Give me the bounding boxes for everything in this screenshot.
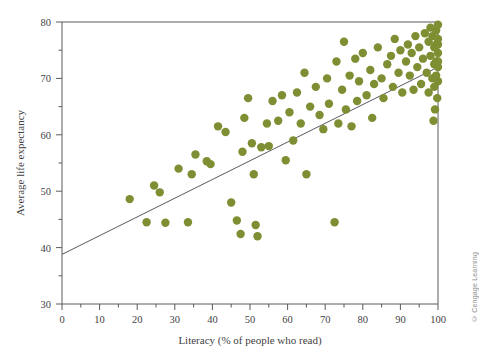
x-tick-label: 90 bbox=[395, 314, 406, 325]
data-point bbox=[125, 195, 133, 203]
copyright-credit: © Cengage Learning bbox=[471, 252, 478, 322]
data-point bbox=[409, 85, 417, 93]
data-point bbox=[351, 54, 359, 62]
axis-labels-group: 0102030405060708090100304050607080Litera… bbox=[14, 17, 446, 347]
data-point bbox=[233, 216, 241, 224]
data-point bbox=[434, 77, 442, 85]
scatter-plot-figure: 0102030405060708090100304050607080Litera… bbox=[0, 0, 480, 362]
y-tick-label: 60 bbox=[41, 130, 52, 141]
data-point bbox=[434, 49, 442, 57]
data-point bbox=[370, 80, 378, 88]
data-point bbox=[278, 91, 286, 99]
data-point bbox=[244, 94, 252, 102]
data-point bbox=[330, 218, 338, 226]
data-point bbox=[353, 97, 361, 105]
data-point bbox=[362, 91, 370, 99]
data-point bbox=[417, 80, 425, 88]
data-point bbox=[389, 83, 397, 91]
data-point bbox=[377, 74, 385, 82]
data-point bbox=[404, 40, 412, 48]
data-point bbox=[274, 117, 282, 125]
x-tick-label: 60 bbox=[282, 314, 293, 325]
data-point bbox=[306, 102, 314, 110]
data-points-group bbox=[125, 21, 442, 241]
data-point bbox=[342, 105, 350, 113]
data-point bbox=[340, 38, 348, 46]
data-point bbox=[285, 108, 293, 116]
data-point bbox=[374, 43, 382, 51]
data-point bbox=[240, 114, 248, 122]
data-point bbox=[334, 119, 342, 127]
data-point bbox=[413, 63, 421, 71]
data-point bbox=[433, 94, 441, 102]
data-point bbox=[300, 69, 308, 77]
data-point bbox=[431, 105, 439, 113]
x-tick-label: 10 bbox=[94, 314, 105, 325]
data-point bbox=[319, 125, 327, 133]
data-point bbox=[150, 181, 158, 189]
data-point bbox=[391, 35, 399, 43]
data-point bbox=[289, 136, 297, 144]
data-point bbox=[263, 119, 271, 127]
data-point bbox=[161, 219, 169, 227]
data-point bbox=[396, 46, 404, 54]
y-tick-label: 40 bbox=[41, 243, 52, 254]
data-point bbox=[257, 143, 265, 151]
x-tick-label: 40 bbox=[207, 314, 218, 325]
data-point bbox=[398, 88, 406, 96]
y-tick-label: 50 bbox=[41, 186, 52, 197]
data-point bbox=[411, 32, 419, 40]
data-point bbox=[434, 21, 442, 29]
data-point bbox=[323, 74, 331, 82]
data-point bbox=[419, 54, 427, 62]
data-point bbox=[265, 142, 273, 150]
data-point bbox=[297, 119, 305, 127]
x-tick-label: 30 bbox=[170, 314, 181, 325]
data-point bbox=[227, 198, 235, 206]
data-point bbox=[282, 156, 290, 164]
data-point bbox=[238, 148, 246, 156]
data-point bbox=[325, 100, 333, 108]
data-point bbox=[253, 232, 261, 240]
data-point bbox=[191, 150, 199, 158]
data-point bbox=[429, 117, 437, 125]
x-tick-label: 100 bbox=[430, 314, 446, 325]
axes-group bbox=[56, 22, 438, 310]
y-tick-label: 80 bbox=[41, 17, 52, 28]
data-point bbox=[406, 71, 414, 79]
y-tick-label: 70 bbox=[41, 73, 52, 84]
data-point bbox=[315, 111, 323, 119]
data-point bbox=[214, 122, 222, 130]
data-point bbox=[312, 83, 320, 91]
plot-canvas: 0102030405060708090100304050607080Litera… bbox=[0, 0, 480, 362]
data-point bbox=[394, 69, 402, 77]
data-point bbox=[338, 85, 346, 93]
x-tick-label: 20 bbox=[132, 314, 143, 325]
data-point bbox=[236, 230, 244, 238]
data-point bbox=[251, 221, 259, 229]
data-point bbox=[383, 60, 391, 68]
y-tick-label: 30 bbox=[41, 299, 52, 310]
data-point bbox=[184, 218, 192, 226]
data-point bbox=[415, 43, 423, 51]
data-point bbox=[221, 128, 229, 136]
y-axis-title: Average life expectancy bbox=[14, 109, 26, 216]
data-point bbox=[174, 164, 182, 172]
data-point bbox=[250, 170, 258, 178]
data-point bbox=[268, 97, 276, 105]
x-tick-label: 0 bbox=[59, 314, 64, 325]
x-tick-label: 70 bbox=[320, 314, 331, 325]
data-point bbox=[402, 57, 410, 65]
data-point bbox=[434, 40, 442, 48]
data-point bbox=[206, 160, 214, 168]
data-point bbox=[302, 170, 310, 178]
data-point bbox=[355, 77, 363, 85]
x-tick-label: 80 bbox=[358, 314, 369, 325]
data-point bbox=[434, 57, 442, 65]
x-axis-title: Literacy (% of people who read) bbox=[178, 334, 322, 347]
data-point bbox=[407, 49, 415, 57]
data-point bbox=[345, 71, 353, 79]
data-point bbox=[142, 218, 150, 226]
data-point bbox=[347, 122, 355, 130]
x-tick-label: 50 bbox=[245, 314, 256, 325]
